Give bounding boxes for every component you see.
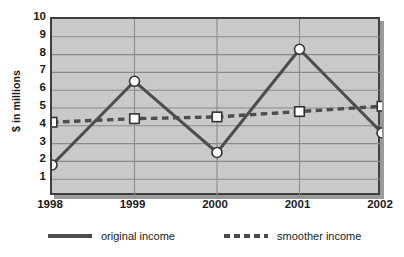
- legend-swatch-dashed-line-icon: [224, 234, 268, 238]
- y-axis-title: $ in millions: [10, 46, 22, 156]
- y-axis-tick-labels: 10987654321: [24, 12, 46, 194]
- plot-area: [50, 17, 380, 195]
- legend-label-original-income: original income: [101, 230, 175, 242]
- plot-svg: [52, 19, 382, 197]
- x-axis-tick-labels: 19981999200020012002: [0, 199, 404, 217]
- y-tick-label-2: 2: [24, 154, 46, 166]
- y-tick-label-4: 4: [24, 118, 46, 130]
- y-tick-label-10: 10: [24, 11, 46, 23]
- x-tick-label-2000: 2000: [185, 199, 245, 211]
- y-tick-label-3: 3: [24, 136, 46, 148]
- y-tick-label-5: 5: [24, 100, 46, 112]
- y-tick-label-1: 1: [24, 171, 46, 183]
- y-tick-label-6: 6: [24, 82, 46, 94]
- legend-item-original-income: original income: [48, 228, 175, 244]
- y-tick-label-9: 9: [24, 29, 46, 41]
- line-chart-figure: $ in millions 10987654321 19981999200020…: [0, 0, 404, 257]
- legend-item-smoother-income: smoother income: [224, 228, 361, 244]
- legend-swatch-solid-line-icon: [48, 234, 92, 238]
- legend-label-smoother-income: smoother income: [277, 230, 361, 242]
- x-tick-label-2001: 2001: [268, 199, 328, 211]
- y-tick-label-8: 8: [24, 47, 46, 59]
- x-tick-label-1998: 1998: [20, 199, 80, 211]
- y-tick-label-7: 7: [24, 65, 46, 77]
- x-tick-label-1999: 1999: [103, 199, 163, 211]
- x-tick-label-2002: 2002: [350, 199, 404, 211]
- chart-legend: original income smoother income: [0, 228, 404, 250]
